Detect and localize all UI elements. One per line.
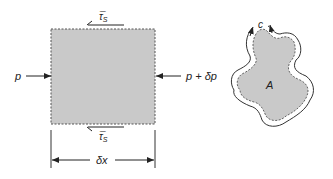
shear-stress-bottom: τ̅S	[87, 127, 124, 143]
area-label: A	[265, 79, 273, 91]
perimeter-label: c	[258, 19, 263, 30]
tau-subscript: S	[103, 136, 108, 143]
shear-top-arrowhead-icon	[87, 21, 92, 25]
diagram-canvas: τ̅S τ̅S p p + δp δx c A	[0, 0, 333, 179]
area-region	[237, 29, 308, 120]
fluid-element-rect	[51, 29, 155, 124]
tau-subscript: S	[103, 16, 108, 23]
outlet-pressure: p + δp	[156, 70, 217, 82]
inlet-pressure-label: p	[14, 70, 21, 82]
shear-stress-top: τ̅S	[87, 11, 124, 25]
length-label: δx	[96, 154, 108, 166]
shear-bottom-label: τ̅S	[99, 131, 108, 143]
inlet-pressure: p	[14, 70, 51, 82]
outlet-pressure-label: p + δp	[185, 70, 217, 82]
cross-section: c A	[231, 19, 313, 126]
control-volume	[51, 29, 155, 124]
shear-top-label: τ̅S	[99, 11, 108, 23]
shear-bottom-arrowhead-icon	[87, 127, 92, 131]
